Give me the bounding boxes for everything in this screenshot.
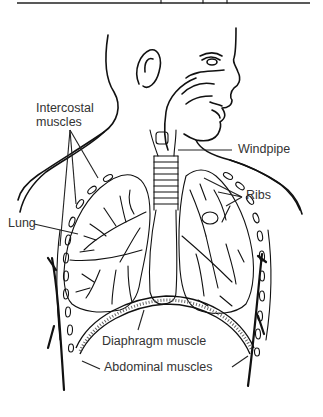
label-ribs: Ribs (246, 188, 271, 203)
mediastinum (149, 210, 176, 304)
label-intercostal-muscles-line1: Intercostal (36, 101, 94, 116)
respiratory-diagram (0, 0, 323, 417)
right-lung (179, 170, 254, 313)
label-diaphragm-muscle: Diaphragm muscle (102, 334, 206, 349)
label-intercostal-muscles-line2: muscles (36, 115, 82, 130)
label-abdominal-muscles: Abdominal muscles (104, 360, 212, 375)
left-arm (48, 258, 64, 390)
label-lung: Lung (8, 216, 36, 231)
label-windpipe: Windpipe (238, 142, 290, 157)
left-lung (64, 175, 150, 312)
right-arm (248, 254, 266, 386)
windpipe (150, 130, 178, 210)
